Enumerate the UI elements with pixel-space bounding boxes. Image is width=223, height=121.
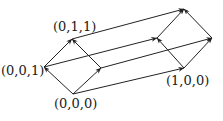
edge-arrow	[157, 38, 184, 68]
vertex-label-000: (0,0,0)	[54, 97, 97, 110]
edge-arrow	[44, 38, 157, 67]
vertex-label-001: (0,0,1)	[1, 64, 44, 77]
lattice-diagram	[0, 0, 223, 121]
edge-arrow	[184, 38, 212, 68]
edge-arrow	[157, 9, 184, 38]
edge-arrow	[101, 38, 212, 68]
edge-arrow	[44, 67, 73, 94]
edge-arrow	[73, 68, 101, 94]
vertex-label-100: (1,0,0)	[166, 74, 209, 87]
edge-arrow	[184, 9, 212, 38]
edge-arrow	[44, 39, 72, 67]
vertex-label-011: (0,1,1)	[53, 20, 96, 33]
